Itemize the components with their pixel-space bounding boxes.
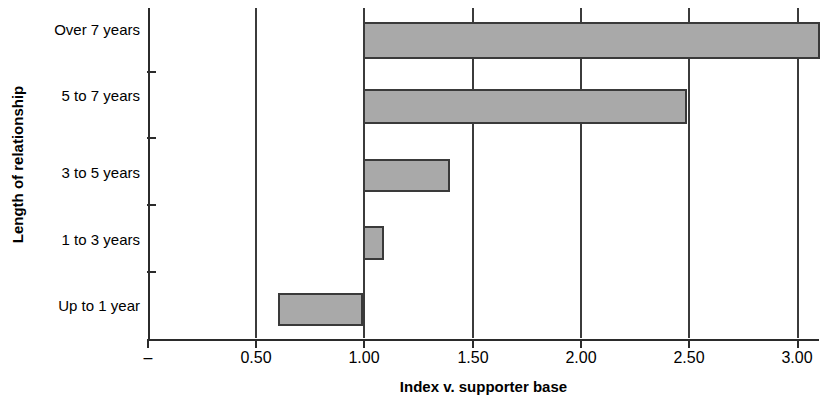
y-tick-label-3-to-5-years: 3 to 5 years [0, 165, 140, 181]
gridline-0-50 [255, 8, 257, 338]
plot-area [148, 8, 819, 338]
x-tick-label-1-00: 1.00 [324, 348, 404, 368]
x-axis-title: Index v. supporter base [148, 378, 819, 395]
x-tick-label-3-00: 3.00 [757, 348, 824, 368]
bar-3-to-5-years [363, 159, 450, 192]
x-axis-tick-1-00 [363, 339, 365, 348]
y-axis-tick-4 [147, 271, 156, 273]
x-axis-tick-1-50 [472, 339, 474, 348]
y-axis-tick-3 [147, 204, 156, 206]
y-axis-line [148, 8, 150, 340]
x-axis-tick-2-00 [580, 339, 582, 348]
x-tick-label-0: – [108, 348, 188, 368]
x-tick-label-2-50: 2.50 [649, 348, 729, 368]
y-tick-label-up-to-1-year: Up to 1 year [0, 298, 140, 314]
x-tick-label-2-00: 2.00 [541, 348, 621, 368]
y-tick-label-5-to-7-years: 5 to 7 years [0, 88, 140, 104]
y-tick-label-1-to-3-years: 1 to 3 years [0, 232, 140, 248]
x-axis-tick-2-50 [688, 339, 690, 348]
bar-5-to-7-years [363, 89, 687, 124]
y-axis-tick-labels: Over 7 years 5 to 7 years 3 to 5 years 1… [0, 8, 140, 338]
x-axis-tick-3-00 [797, 339, 799, 348]
bar-1-to-3-years [363, 226, 384, 260]
bar-over-7-years [363, 22, 820, 59]
y-tick-label-over-7-years: Over 7 years [0, 22, 140, 38]
x-axis-line [148, 339, 819, 341]
x-axis-tick-labels: – 0.50 1.00 1.50 2.00 2.50 3.00 [148, 348, 819, 370]
y-axis-tick-2 [147, 137, 156, 139]
y-axis-tick-1 [147, 71, 156, 73]
x-axis-tick-0-50 [255, 339, 257, 348]
x-tick-label-0-50: 0.50 [216, 348, 296, 368]
x-axis-tick-0 [147, 339, 149, 348]
x-tick-label-1-50: 1.50 [433, 348, 513, 368]
bar-up-to-1-year [278, 293, 363, 326]
